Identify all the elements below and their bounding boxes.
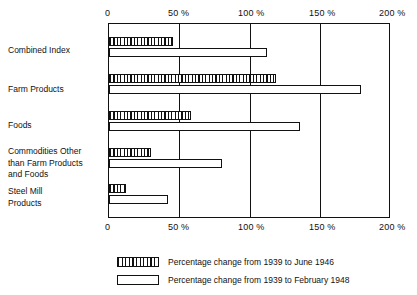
category-label-farm-products: Farm Products [8, 84, 106, 96]
bottom-tick-label-100: 100 % [238, 222, 265, 232]
top-tick-label-50: 50 % [168, 8, 189, 18]
category-label-foods: Foods [8, 120, 106, 132]
bar-farm-products-1948 [109, 85, 361, 94]
top-tick-label-200: 200 % [379, 8, 406, 18]
legend-label-1948: Percentage change from 1939 to February … [168, 275, 349, 285]
category-label-steel-mill-products: Steel Mill Products [8, 186, 106, 209]
bar-chart: 0 50 % 100 % 150 % 200 % 0 50 % 100 % 15… [0, 0, 417, 295]
bar-combined-index-1948 [109, 48, 267, 57]
gridline-150 [320, 24, 321, 217]
bar-commodities-other-1946 [109, 148, 151, 157]
legend-item-1946: Percentage change from 1939 to June 1946 [117, 254, 407, 269]
bar-commodities-other-1948 [109, 159, 222, 168]
bottom-tick-label-50: 50 % [168, 222, 189, 232]
bar-foods-1948 [109, 122, 300, 131]
bar-foods-1946 [109, 111, 191, 120]
top-tick-label-100: 100 % [238, 8, 265, 18]
legend: Percentage change from 1939 to June 1946… [117, 254, 407, 290]
legend-swatch-open-icon [117, 275, 159, 285]
bottom-tick-label-0: 0 [105, 222, 110, 232]
top-tick-label-150: 150 % [309, 8, 336, 18]
legend-item-1948: Percentage change from 1939 to February … [117, 272, 407, 287]
top-tick-label-0: 0 [105, 8, 110, 18]
bar-steel-mill-products-1948 [109, 195, 168, 204]
category-label-commodities-other: Commodities Other than Farm Products and… [8, 146, 106, 181]
bar-steel-mill-products-1946 [109, 184, 126, 193]
bottom-tick-label-200: 200 % [379, 222, 406, 232]
legend-label-1946: Percentage change from 1939 to June 1946 [168, 257, 334, 267]
category-label-combined-index: Combined Index [8, 45, 106, 57]
bar-farm-products-1946 [109, 74, 276, 83]
plot-area [108, 23, 390, 218]
bottom-tick-label-150: 150 % [309, 222, 336, 232]
legend-swatch-hatched-icon [117, 257, 159, 267]
bar-combined-index-1946 [109, 37, 173, 46]
